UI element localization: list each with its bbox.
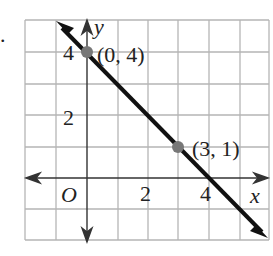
x-tick-4: 4 [200,181,211,206]
coordinate-plane: . (0, 4) (3, 1) 4 2 2 4 O x y [0,0,273,256]
grid [25,20,269,240]
y-axis-label: y [92,14,104,39]
origin-label: O [61,182,77,207]
y-tick-2: 2 [63,105,74,130]
point-label-0-4: (0, 4) [97,42,145,67]
point-3-1 [172,141,184,153]
bullet-dot: . [0,22,6,47]
point-label-3-1: (3, 1) [192,136,240,161]
x-tick-2: 2 [140,181,151,206]
x-axis-label: x [249,183,260,208]
y-tick-4: 4 [63,40,74,65]
point-0-4 [81,46,93,58]
